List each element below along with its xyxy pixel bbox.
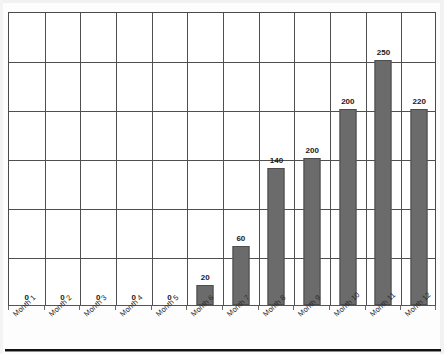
bar-group: 220 xyxy=(401,13,437,305)
bar xyxy=(411,109,428,305)
bar-value-label: 250 xyxy=(377,48,390,57)
page-edge-top xyxy=(0,0,444,3)
bar xyxy=(375,60,392,305)
bar-series: 000002060140200200250220 xyxy=(9,13,435,305)
bar xyxy=(304,158,321,305)
bar-value-label: 200 xyxy=(305,146,318,155)
bar xyxy=(339,109,356,305)
bar-group: 0 xyxy=(80,13,116,305)
bar-group: 200 xyxy=(294,13,330,305)
bar-group: 200 xyxy=(330,13,366,305)
bar xyxy=(268,168,285,305)
bar-group: 0 xyxy=(116,13,152,305)
plot-area: 000002060140200200250220 xyxy=(8,12,436,306)
bar-value-label: 60 xyxy=(236,234,245,243)
x-axis-tick-labels: Month 1Month 2Month 3Month 4Month 5Month… xyxy=(8,306,436,350)
bar-group: 60 xyxy=(223,13,259,305)
bar-value-label: 140 xyxy=(270,156,283,165)
bar-value-label: 220 xyxy=(412,97,425,106)
bar-value-label: 200 xyxy=(341,97,354,106)
bar-chart-figure: 000002060140200200250220 Month 1Month 2M… xyxy=(0,0,444,354)
bar-group: 0 xyxy=(45,13,81,305)
page-edge-left xyxy=(0,0,3,354)
bar-group: 140 xyxy=(259,13,295,305)
bar-group: 0 xyxy=(9,13,45,305)
bar-group: 0 xyxy=(152,13,188,305)
bar-group: 20 xyxy=(187,13,223,305)
bottom-divider-shadow xyxy=(5,351,441,352)
page-edge-right xyxy=(440,0,444,354)
bar-group: 250 xyxy=(366,13,402,305)
bar-value-label: 20 xyxy=(201,273,210,282)
